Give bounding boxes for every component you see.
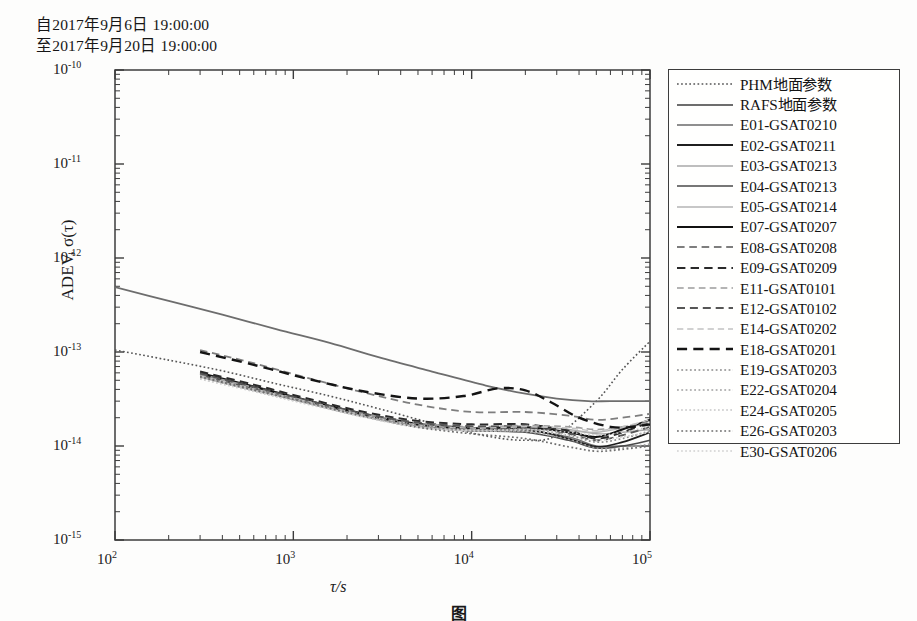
x-tick-label-1: 103 <box>275 549 295 568</box>
legend-label: E14-GSAT0202 <box>740 321 837 336</box>
y-tick-label-1: 10-11 <box>53 153 81 172</box>
y-tick-label-4: 10-14 <box>53 435 81 454</box>
legend-line-swatch-11 <box>676 302 734 314</box>
legend-item: E11-GSAT0101 <box>669 278 899 298</box>
legend-line-swatch-1 <box>676 99 734 111</box>
legend-label: PHM地面参数 <box>740 77 832 92</box>
legend-line-swatch-9 <box>676 262 734 274</box>
legend-line-swatch-8 <box>676 241 734 253</box>
legend-line-swatch-16 <box>676 404 734 416</box>
legend-label: E01-GSAT0210 <box>740 117 837 132</box>
legend-item: E19-GSAT0203 <box>669 359 899 379</box>
legend-label: E19-GSAT0203 <box>740 362 837 377</box>
legend-label: E26-GSAT0203 <box>740 423 837 438</box>
legend-line-swatch-14 <box>676 364 734 376</box>
legend-item: E05-GSAT0214 <box>669 196 899 216</box>
figure-root: 自2017年9月6日 19:00:00 至2017年9月20日 19:00:00… <box>0 0 917 621</box>
legend-line-swatch-13 <box>676 343 734 355</box>
legend-line-swatch-6 <box>676 201 734 213</box>
legend-label: E12-GSAT0102 <box>740 301 837 316</box>
legend-label: E18-GSAT0201 <box>740 342 837 357</box>
legend-item: E01-GSAT0210 <box>669 115 899 135</box>
legend-label: E24-GSAT0205 <box>740 403 837 418</box>
legend-label: E22-GSAT0204 <box>740 382 837 397</box>
legend-line-swatch-0 <box>676 78 734 90</box>
legend-item: E24-GSAT0205 <box>669 400 899 420</box>
legend-item: E22-GSAT0204 <box>669 380 899 400</box>
legend-item: E04-GSAT0213 <box>669 176 899 196</box>
series-line-10 <box>200 374 650 429</box>
legend-item: RAFS地面参数 <box>669 94 899 114</box>
plot-frame <box>115 70 650 540</box>
legend-line-swatch-18 <box>676 445 734 457</box>
legend-line-swatch-15 <box>676 384 734 396</box>
legend-line-swatch-2 <box>676 119 734 131</box>
legend-line-swatch-12 <box>676 323 734 335</box>
legend-item: PHM地面参数 <box>669 74 899 94</box>
legend-item: E03-GSAT0213 <box>669 156 899 176</box>
legend-label: E02-GSAT0211 <box>740 138 836 153</box>
series-line-8 <box>200 350 650 420</box>
legend-item: E26-GSAT0203 <box>669 421 899 441</box>
legend-label: E30-GSAT0206 <box>740 444 837 459</box>
legend-line-swatch-4 <box>676 160 734 172</box>
legend-label: E11-GSAT0101 <box>740 281 836 296</box>
legend-label: RAFS地面参数 <box>740 97 837 112</box>
y-tick-label-0: 10-10 <box>53 59 81 78</box>
figure-caption: 图 <box>0 600 917 621</box>
y-tick-label-3: 10-13 <box>53 341 81 360</box>
legend-label: E03-GSAT0213 <box>740 158 837 173</box>
legend-box: PHM地面参数RAFS地面参数E01-GSAT0210E02-GSAT0211E… <box>668 69 900 444</box>
axis-ticks <box>115 70 650 540</box>
series-group <box>115 287 650 451</box>
series-line-0 <box>115 341 650 440</box>
x-axis-label: τ/s <box>330 578 346 596</box>
legend-item: E18-GSAT0201 <box>669 339 899 359</box>
y-tick-label-5: 10-15 <box>53 529 81 548</box>
legend-item: E07-GSAT0207 <box>669 217 899 237</box>
legend-item: E02-GSAT0211 <box>669 135 899 155</box>
legend-line-swatch-7 <box>676 221 734 233</box>
legend-line-swatch-10 <box>676 282 734 294</box>
series-line-1 <box>115 287 650 401</box>
x-tick-label-2: 104 <box>454 549 474 568</box>
legend-item: E12-GSAT0102 <box>669 298 899 318</box>
legend-line-swatch-5 <box>676 180 734 192</box>
legend-line-swatch-17 <box>676 425 734 437</box>
y-tick-label-2: 10-12 <box>53 247 81 266</box>
legend-item: E09-GSAT0209 <box>669 258 899 278</box>
legend-item: E08-GSAT0208 <box>669 237 899 257</box>
legend-label: E04-GSAT0213 <box>740 179 837 194</box>
legend-item: E30-GSAT0206 <box>669 441 899 461</box>
legend-label: E05-GSAT0214 <box>740 199 837 214</box>
series-line-12 <box>200 376 650 431</box>
legend-line-swatch-3 <box>676 139 734 151</box>
legend-item: E14-GSAT0202 <box>669 319 899 339</box>
legend-label: E07-GSAT0207 <box>740 219 837 234</box>
legend-label: E09-GSAT0209 <box>740 260 837 275</box>
x-tick-label-0: 102 <box>97 549 117 568</box>
legend-label: E08-GSAT0208 <box>740 240 837 255</box>
x-tick-label-3: 105 <box>632 549 652 568</box>
